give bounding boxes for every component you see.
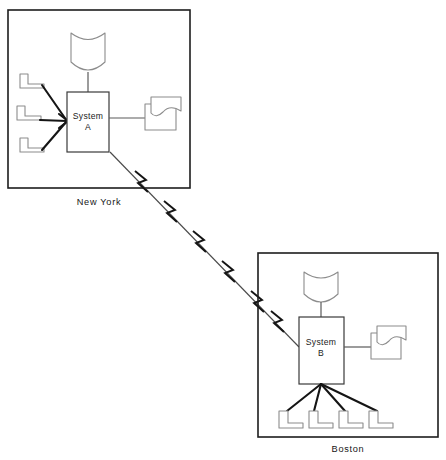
network-topology-diagram: System A New York — [0, 0, 446, 460]
site-label-boston: Boston — [332, 444, 365, 454]
site-new-york: System A New York — [8, 10, 190, 207]
host-label-system-a-line1: System — [73, 111, 103, 121]
printer-document-icon-new-york — [109, 97, 181, 130]
host-system-a: System A — [67, 92, 109, 152]
site-label-new-york: New York — [77, 197, 121, 207]
host-label-system-b-line2: B — [318, 348, 324, 358]
terminal-link — [40, 120, 67, 121]
terminal-link — [321, 384, 377, 411]
terminal-icon — [339, 411, 363, 428]
terminal-link — [321, 384, 345, 411]
magnetic-tape-icon-boston — [304, 272, 338, 317]
terminal-icon — [309, 411, 333, 428]
host-system-b: System B — [299, 317, 344, 384]
site-frame-boston — [258, 253, 438, 437]
diagram-canvas: System A New York — [0, 0, 446, 460]
tape-body — [304, 272, 338, 302]
host-label-system-a-line2: A — [85, 122, 91, 132]
terminal-icon — [20, 74, 44, 88]
terminal-icon — [17, 106, 41, 120]
printer-document-icon-boston — [344, 326, 406, 359]
magnetic-tape-icon-new-york — [71, 33, 105, 92]
terminal-icon — [20, 138, 44, 152]
site-boston: System B Boston — [258, 253, 438, 454]
terminal-link — [42, 85, 67, 121]
terminal-cluster-new-york — [17, 74, 68, 152]
terminal-icon — [279, 411, 303, 428]
host-label-system-b-line1: System — [306, 337, 336, 347]
terminal-cluster-boston — [279, 384, 393, 428]
terminal-icon — [369, 411, 393, 428]
lightning-bolt-icon-wan-link — [110, 152, 299, 347]
